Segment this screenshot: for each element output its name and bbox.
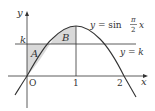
graph: y x O 1 2 k A B y = k y = sin π 2 x — [0, 0, 155, 111]
curve-label-var: x — [139, 20, 144, 30]
curve-label-frac-num: π — [130, 16, 136, 24]
k-label: k — [20, 34, 26, 45]
tick-label-2: 2 — [117, 78, 123, 88]
curve-label-prefix: y = sin — [89, 20, 122, 30]
curve-label-frac-den: 2 — [131, 26, 135, 34]
region-a-label: A — [30, 48, 38, 59]
y-axis-arrow-icon — [25, 11, 29, 16]
region-b-label: B — [61, 32, 69, 43]
y-axis-label: y — [16, 7, 23, 18]
origin-label: O — [29, 78, 36, 88]
x-axis-label: x — [141, 76, 147, 87]
tick-label-1: 1 — [73, 78, 79, 88]
line-y-k-label: y = k — [119, 47, 144, 57]
